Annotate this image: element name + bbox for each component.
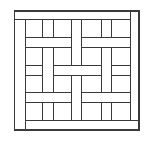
parquet-pattern-drawing [0,0,147,144]
parquet-diagram: Basket-weave parquet pattern [0,0,147,144]
outer-frame [15,11,139,130]
